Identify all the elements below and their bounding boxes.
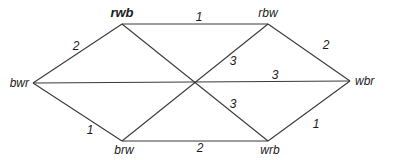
edge-rbw-wbr [268, 24, 350, 81]
edge-weight-label: 2 [72, 39, 80, 53]
edge-rwb-bwr [33, 24, 122, 83]
edge-weight-label: 3 [230, 97, 237, 111]
node-label-brw: brw [114, 143, 135, 157]
node-label-rwb: rwb [110, 5, 133, 20]
edge-weight-label: 1 [196, 10, 203, 24]
edge-weight-label: 2 [196, 141, 204, 155]
edge-bwr-wbr [33, 81, 350, 83]
graph-diagram: 122333121 rwbrbwbwrwbrbrwwrb [0, 0, 404, 160]
node-label-wbr: wbr [355, 74, 375, 88]
edge-weight-label: 1 [313, 117, 320, 131]
edge-bwr-brw [33, 83, 122, 141]
edge-weight-label: 3 [272, 68, 279, 82]
edge-wrb-wbr [268, 81, 350, 141]
edge-weight-label: 2 [322, 38, 330, 52]
edge-weight-label: 3 [230, 54, 237, 68]
edge-weight-label: 1 [87, 123, 94, 137]
node-label-wrb: wrb [260, 143, 280, 157]
edges-group [33, 24, 350, 141]
node-label-rbw: rbw [258, 6, 279, 20]
node-label-bwr: bwr [10, 76, 30, 90]
graph-svg: 122333121 rwbrbwbwrwbrbrwwrb [0, 0, 404, 160]
